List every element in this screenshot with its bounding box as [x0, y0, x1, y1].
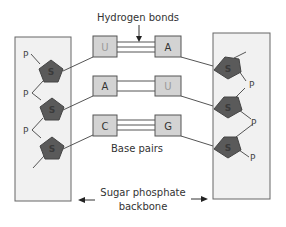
phosphate-label: P	[23, 126, 29, 136]
dna-rna-diagram: S S S P P P S S S P P P U	[0, 0, 286, 227]
right-backbone-box	[213, 33, 270, 199]
base-label: C	[102, 121, 109, 132]
glycosidic-bonds	[63, 57, 213, 149]
phosphate-label: P	[249, 80, 255, 90]
phosphate-label: P	[23, 50, 29, 60]
sugar-label: S	[225, 64, 231, 74]
base-label: U	[101, 42, 108, 53]
base-label: U	[164, 81, 171, 92]
sugar-label: S	[225, 143, 231, 153]
sugar-label: S	[225, 103, 231, 113]
hydrogen-bonds-label: Hydrogen bonds	[97, 12, 179, 23]
base-label: G	[164, 121, 172, 132]
sugar-label: S	[48, 67, 54, 77]
base-pairs-label: Base pairs	[111, 143, 163, 154]
hydrogen-bond-lines	[117, 42, 155, 130]
phosphate-label: P	[23, 89, 29, 99]
phosphate-label: P	[251, 118, 257, 128]
sugar-label: S	[49, 144, 55, 154]
base-pair-2: A U	[93, 76, 181, 96]
base-label: A	[102, 81, 109, 92]
arrow-left-icon	[78, 197, 85, 203]
base-label: A	[165, 42, 172, 53]
sugar-label: S	[49, 105, 55, 115]
phosphate-label: P	[250, 153, 256, 163]
arrow-down-icon	[136, 36, 142, 42]
backbone-label-line2: backbone	[119, 201, 168, 212]
left-backbone-box	[15, 37, 71, 201]
arrow-right-icon	[201, 196, 208, 202]
backbone-label-line1: Sugar phosphate	[100, 187, 185, 198]
